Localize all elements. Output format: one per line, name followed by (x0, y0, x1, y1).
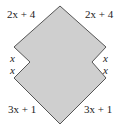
label-left-lower: x (10, 65, 15, 76)
label-left-upper: x (10, 53, 15, 64)
label-right-upper: x (103, 53, 108, 64)
label-right-lower: x (103, 65, 108, 76)
label-top-left: 2x + 4 (7, 9, 35, 20)
label-top-right: 2x + 4 (85, 9, 113, 20)
label-bottom-right: 3x + 1 (84, 104, 112, 115)
diagram-canvas: 2x + 4 2x + 4 x x x x 3x + 1 3x + 1 (0, 0, 121, 130)
label-bottom-left: 3x + 1 (8, 104, 36, 115)
